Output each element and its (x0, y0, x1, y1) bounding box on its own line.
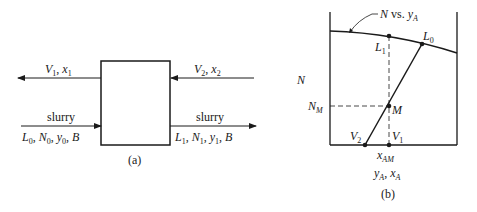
label-l1-n1-y1-b: L1, N1, y1, B (174, 130, 233, 146)
label-xam: xAM (376, 148, 395, 164)
panel-b: N vs. yA L1 L0 M V2 V1 NM xAM N yA, xA (… (296, 7, 457, 201)
y-axis-label-n: N (296, 73, 306, 87)
point-m (387, 104, 392, 109)
label-slurry-out: slurry (196, 110, 224, 124)
label-n-vs-ya: N vs. yA (379, 7, 418, 23)
label-m: M (391, 103, 403, 117)
label-nm: NM (307, 99, 324, 115)
panel-a: V1, x1 V2, x2 slurry L0, N0, y0, B slurr… (18, 61, 256, 167)
curve-n-vs-ya (330, 31, 457, 53)
caption-a: (a) (128, 153, 141, 167)
label-v1-x1: V1, x1 (45, 62, 72, 78)
diagram-canvas: V1, x1 V2, x2 slurry L0, N0, y0, B slurr… (0, 0, 477, 212)
label-v2: V2 (350, 129, 361, 145)
point-v2 (363, 143, 368, 148)
label-slurry-in: slurry (47, 110, 75, 124)
point-l1 (387, 34, 392, 39)
label-v1: V1 (392, 129, 403, 145)
caption-b: (b) (381, 187, 395, 201)
label-l0-n0-y0-b: L0, N0, y0, B (21, 130, 80, 146)
label-l1: L1 (374, 40, 386, 56)
label-v2-x2: V2, x2 (194, 62, 221, 78)
extractor-stage-box (101, 61, 170, 145)
label-l0: L0 (422, 29, 434, 45)
x-axis-label-ya-xa: yA, xA (373, 166, 401, 182)
point-v1 (387, 143, 392, 148)
curve-label-leader (350, 14, 378, 32)
